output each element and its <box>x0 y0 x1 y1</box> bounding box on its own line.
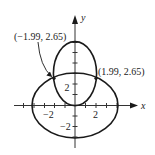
y-tick-label-neg2: −2 <box>60 121 71 132</box>
right-intersection-label: (1.99, 2.65) <box>98 66 145 78</box>
left-intersection-label: (−1.99, 2.65) <box>14 31 66 43</box>
intersection-point-left <box>52 77 55 80</box>
x-tick-label-neg2: −2 <box>43 109 54 120</box>
x-axis-arrowhead-icon <box>130 103 138 109</box>
x-axis-label: x <box>140 100 146 111</box>
annotation-arrow-icon <box>38 42 52 77</box>
x-tick-label-2: 2 <box>93 109 98 120</box>
y-axis-label: y <box>80 12 86 23</box>
y-axis-arrowhead-icon <box>72 15 78 24</box>
intersection-point-right <box>94 77 97 80</box>
y-axis <box>72 15 78 148</box>
polar-curves-figure: (−1.99, 2.65) (1.99, 2.65) x y −2 2 2 −2 <box>0 0 155 155</box>
y-tick-label-2: 2 <box>65 82 70 93</box>
